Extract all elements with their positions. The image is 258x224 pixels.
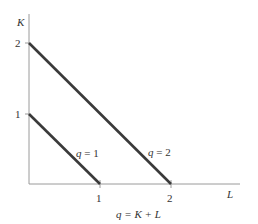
y-axis-label: K [16, 16, 25, 28]
label-q2: q = 2 [148, 146, 171, 158]
chart: K L 2 1 1 2 q = 1 q = 2 q = K + L [0, 0, 258, 224]
y-tick-label-2: 2 [15, 37, 21, 49]
y-tick-label-1: 1 [15, 108, 21, 120]
caption: q = K + L [116, 208, 161, 220]
x-tick-label-1: 1 [96, 192, 102, 204]
x-axis-label: L [226, 188, 233, 200]
x-tick-label-2: 2 [167, 192, 173, 204]
line-q2 [29, 43, 171, 184]
label-q1: q = 1 [76, 147, 99, 159]
